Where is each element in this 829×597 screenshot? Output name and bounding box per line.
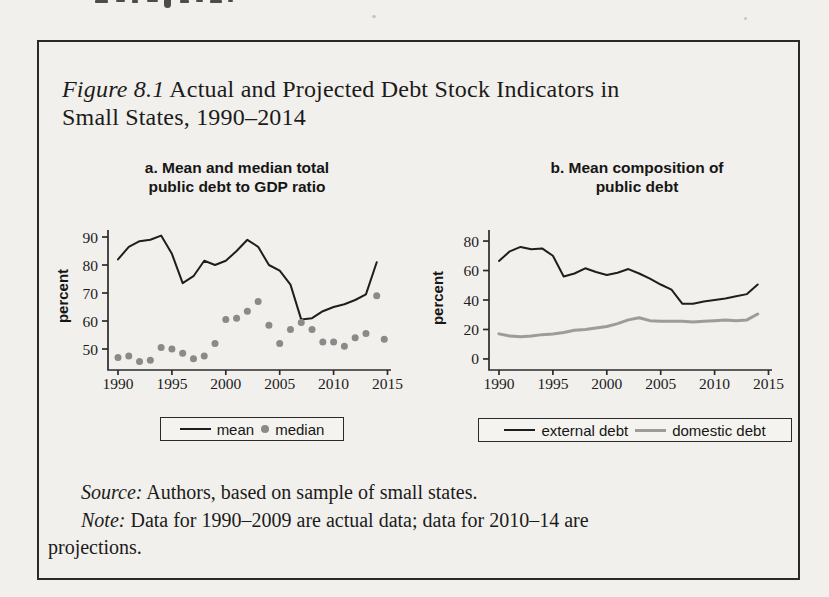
source-line: Source: Authors, based on sample of smal… bbox=[48, 479, 793, 507]
legend-item: domestic debt bbox=[635, 422, 765, 439]
legend-line-swatch bbox=[504, 429, 535, 431]
median-dot bbox=[362, 330, 369, 337]
legend-label: domestic debt bbox=[672, 422, 765, 439]
source-note-block: Source: Authors, based on sample of smal… bbox=[48, 479, 793, 562]
scan-artifact bbox=[196, 0, 203, 2]
median-dot bbox=[319, 339, 326, 346]
x-tick-label: 2010 bbox=[699, 375, 730, 392]
figure-caption: Figure 8.1 Actual and Projected Debt Sto… bbox=[62, 75, 777, 131]
figure-number: Figure 8.1 bbox=[62, 76, 164, 102]
panel-a-chart: 5060708090199019952000200520102015 bbox=[77, 228, 407, 398]
source-label: Source: bbox=[81, 481, 142, 503]
median-dot bbox=[373, 292, 380, 299]
median-dot bbox=[212, 340, 219, 347]
median-dot bbox=[125, 353, 132, 360]
median-dot bbox=[330, 339, 337, 346]
legend-item: median bbox=[261, 421, 324, 438]
y-tick-label: 60 bbox=[464, 262, 480, 279]
y-tick-label: 0 bbox=[471, 350, 479, 367]
median-dot bbox=[222, 316, 229, 323]
x-tick-label: 2015 bbox=[372, 375, 403, 392]
y-tick-label: 50 bbox=[83, 341, 99, 358]
scan-artifact bbox=[132, 0, 138, 3]
scan-artifact bbox=[116, 0, 125, 2]
panel-a-title: a. Mean and median total public debt to … bbox=[117, 158, 357, 196]
panel-b-y-axis-label: percent bbox=[429, 243, 445, 353]
median-dot bbox=[309, 326, 316, 333]
external-debt-line bbox=[499, 247, 758, 304]
legend-label: external debt bbox=[541, 422, 628, 439]
legend-dot-swatch bbox=[261, 425, 269, 433]
median-dot bbox=[265, 322, 272, 329]
median-dot bbox=[190, 355, 197, 362]
y-tick-label: 80 bbox=[464, 233, 480, 250]
domestic-debt-line bbox=[499, 314, 758, 337]
y-tick-label: 60 bbox=[83, 313, 99, 330]
x-tick-label: 1990 bbox=[103, 375, 134, 392]
figure-frame: Figure 8.1 Actual and Projected Debt Sto… bbox=[37, 40, 800, 580]
figure-caption-line2: Small States, 1990–2014 bbox=[62, 104, 306, 130]
median-dot bbox=[287, 326, 294, 333]
legend-line-swatch bbox=[180, 428, 211, 430]
median-dot bbox=[179, 350, 186, 357]
scan-artifact bbox=[210, 0, 222, 3]
median-dot bbox=[244, 308, 251, 315]
scan-artifact bbox=[180, 0, 189, 3]
x-tick-label: 2005 bbox=[645, 375, 676, 392]
x-tick-label: 1990 bbox=[484, 375, 515, 392]
y-tick-label: 70 bbox=[83, 285, 99, 302]
median-dot bbox=[341, 343, 348, 350]
axis bbox=[108, 230, 391, 370]
median-dot bbox=[115, 354, 122, 361]
scan-artifact bbox=[95, 0, 108, 3]
scan-artifact bbox=[744, 17, 747, 20]
x-tick-label: 2000 bbox=[591, 375, 622, 392]
median-dot bbox=[233, 315, 240, 322]
median-dot bbox=[201, 353, 208, 360]
x-tick-label: 2005 bbox=[264, 375, 295, 392]
figure-caption-text: Actual and Projected Debt Stock Indicato… bbox=[164, 76, 619, 102]
median-dot bbox=[168, 346, 175, 353]
legend-line-swatch bbox=[635, 429, 666, 432]
y-tick-label: 90 bbox=[83, 229, 99, 246]
x-tick-label: 2015 bbox=[753, 375, 784, 392]
note-line-2: projections. bbox=[48, 534, 793, 562]
scan-artifact bbox=[228, 0, 233, 2]
scan-artifact bbox=[147, 0, 158, 2]
median-extra-dot bbox=[381, 336, 388, 343]
note-line: Note: Data for 1990–2009 are actual data… bbox=[48, 507, 793, 535]
panel-a-y-axis-label: percent bbox=[54, 241, 70, 351]
median-dot bbox=[158, 344, 165, 351]
axis bbox=[489, 230, 772, 370]
legend-label: mean bbox=[217, 421, 255, 438]
y-tick-label: 80 bbox=[83, 257, 99, 274]
x-tick-label: 1995 bbox=[156, 375, 187, 392]
x-tick-label: 2000 bbox=[210, 375, 241, 392]
note-label: Note: bbox=[81, 509, 125, 531]
legend-item: external debt bbox=[504, 422, 628, 439]
panel-b-title: b. Mean composition of public debt bbox=[517, 158, 757, 196]
scan-artifact bbox=[372, 15, 376, 18]
panel-b-chart: 020406080199019952000200520102015 bbox=[458, 228, 788, 398]
median-dot bbox=[276, 340, 283, 347]
median-dot bbox=[298, 319, 305, 326]
legend-item: mean bbox=[180, 421, 255, 438]
median-dot bbox=[352, 334, 359, 341]
median-dot bbox=[136, 358, 143, 365]
mean-line bbox=[118, 236, 377, 320]
y-tick-label: 20 bbox=[464, 321, 480, 338]
legend-label: median bbox=[275, 421, 324, 438]
x-tick-label: 2010 bbox=[318, 375, 349, 392]
median-dot bbox=[147, 357, 154, 364]
median-dot bbox=[255, 298, 262, 305]
scan-artifact bbox=[164, 0, 171, 8]
scanned-book-page: { "page_background": "#f2f0ec", "figure"… bbox=[0, 0, 829, 597]
x-tick-label: 1995 bbox=[537, 375, 568, 392]
panel-a-legend: meanmedian bbox=[160, 417, 344, 441]
panel-b-legend: external debtdomestic debt bbox=[478, 418, 792, 442]
y-tick-label: 40 bbox=[464, 292, 480, 309]
